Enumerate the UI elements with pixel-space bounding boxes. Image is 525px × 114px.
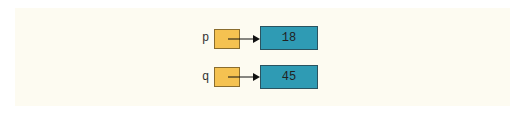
arrow-icon xyxy=(0,0,525,114)
